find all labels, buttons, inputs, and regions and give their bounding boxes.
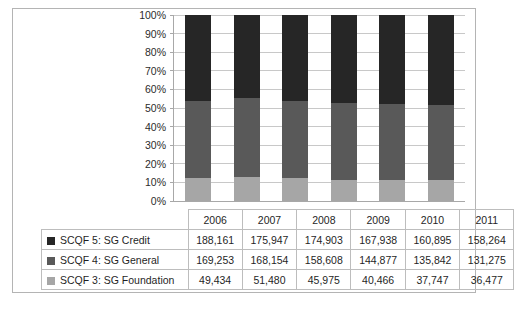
table-year-header: 2010	[405, 210, 459, 230]
table-value-cell: 37,747	[405, 270, 459, 290]
table-value-cell: 169,253	[188, 250, 242, 270]
stacked-bar[interactable]	[234, 15, 260, 201]
bar-segment-foundation[interactable]	[428, 180, 454, 201]
plot-area-wrapper: 100%90%80%70%60%50%40%30%20%10%0%	[13, 9, 475, 209]
stacked-bar[interactable]	[428, 15, 454, 201]
y-axis-tick-label: 30%	[121, 139, 166, 151]
y-axis-tick-label: 50%	[121, 102, 166, 114]
table-year-header: 2008	[297, 210, 351, 230]
table-value-cell: 36,477	[460, 270, 514, 290]
table-corner-cell	[42, 210, 189, 230]
stacked-bar[interactable]	[185, 15, 211, 201]
bar-segment-credit[interactable]	[428, 15, 454, 105]
table-value-cell: 188,161	[188, 230, 242, 250]
table-value-cell: 45,975	[297, 270, 351, 290]
legend-swatch-icon	[47, 277, 55, 285]
table-value-cell: 144,877	[351, 250, 405, 270]
bar-group	[174, 15, 465, 201]
legend-label: SCQF 5: SG Credit	[60, 234, 150, 246]
table-header-row: 200620072008200920102011	[42, 210, 514, 230]
data-table: 200620072008200920102011SCQF 5: SG Credi…	[41, 209, 514, 290]
legend-swatch-icon	[47, 257, 55, 265]
legend-swatch-icon	[47, 237, 55, 245]
table-year-header: 2011	[460, 210, 514, 230]
y-axis-tick-label: 40%	[121, 121, 166, 133]
bar-segment-credit[interactable]	[282, 15, 308, 101]
chart-frame: 100%90%80%70%60%50%40%30%20%10%0% 200620…	[12, 8, 476, 293]
y-axis-tick-label: 20%	[121, 158, 166, 170]
bar-slot	[368, 15, 417, 201]
bar-segment-credit[interactable]	[379, 15, 405, 104]
bar-segment-general[interactable]	[282, 101, 308, 179]
table-value-cell: 49,434	[188, 270, 242, 290]
stacked-bar[interactable]	[331, 15, 357, 201]
legend-label: SCQF 4: SG General	[60, 254, 159, 266]
table-row: SCQF 3: SG Foundation49,43451,48045,9754…	[42, 270, 514, 290]
table-year-header: 2009	[351, 210, 405, 230]
legend-entry: SCQF 5: SG Credit	[42, 230, 189, 250]
y-axis-labels: 100%90%80%70%60%50%40%30%20%10%0%	[121, 15, 166, 201]
bar-segment-foundation[interactable]	[185, 178, 211, 201]
bar-segment-foundation[interactable]	[331, 180, 357, 201]
table-value-cell: 175,947	[242, 230, 296, 250]
stacked-bar[interactable]	[282, 15, 308, 201]
bar-segment-general[interactable]	[428, 105, 454, 180]
table-value-cell: 131,275	[460, 250, 514, 270]
plot-area	[173, 15, 465, 201]
bar-segment-general[interactable]	[185, 101, 211, 178]
table-value-cell: 158,608	[297, 250, 351, 270]
y-axis-tick-label: 60%	[121, 83, 166, 95]
bar-segment-credit[interactable]	[185, 15, 211, 101]
y-axis-tick-label: 10%	[121, 176, 166, 188]
table-year-header: 2007	[242, 210, 296, 230]
bar-segment-credit[interactable]	[234, 15, 260, 98]
table-value-cell: 160,895	[405, 230, 459, 250]
table-row: SCQF 5: SG Credit188,161175,947174,90316…	[42, 230, 514, 250]
legend-entry: SCQF 4: SG General	[42, 250, 189, 270]
bar-slot	[223, 15, 272, 201]
bar-segment-foundation[interactable]	[234, 177, 260, 201]
stacked-bar[interactable]	[379, 15, 405, 201]
bar-slot	[417, 15, 466, 201]
bar-segment-general[interactable]	[234, 98, 260, 177]
legend-label: SCQF 3: SG Foundation	[60, 274, 174, 286]
y-axis-tick-label: 70%	[121, 65, 166, 77]
table-value-cell: 158,264	[460, 230, 514, 250]
y-axis-tick-label: 100%	[121, 9, 166, 21]
y-axis-tick-label: 80%	[121, 46, 166, 58]
table-value-cell: 40,466	[351, 270, 405, 290]
bar-slot	[271, 15, 320, 201]
y-axis-tick-label: 0%	[121, 195, 166, 207]
table-value-cell: 174,903	[297, 230, 351, 250]
bar-segment-general[interactable]	[331, 103, 357, 179]
table-row: SCQF 4: SG General169,253168,154158,6081…	[42, 250, 514, 270]
y-axis-tick-label: 90%	[121, 28, 166, 40]
bar-segment-general[interactable]	[379, 104, 405, 180]
legend-entry: SCQF 3: SG Foundation	[42, 270, 189, 290]
table-value-cell: 135,842	[405, 250, 459, 270]
bar-segment-foundation[interactable]	[282, 178, 308, 201]
bar-slot	[174, 15, 223, 201]
table-value-cell: 51,480	[242, 270, 296, 290]
bar-slot	[320, 15, 369, 201]
table-value-cell: 167,938	[351, 230, 405, 250]
table-year-header: 2006	[188, 210, 242, 230]
bar-segment-foundation[interactable]	[379, 180, 405, 201]
bar-segment-credit[interactable]	[331, 15, 357, 103]
table-value-cell: 168,154	[242, 250, 296, 270]
